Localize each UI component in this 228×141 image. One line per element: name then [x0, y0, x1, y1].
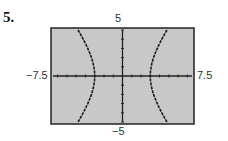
calculator-graph	[0, 0, 228, 141]
